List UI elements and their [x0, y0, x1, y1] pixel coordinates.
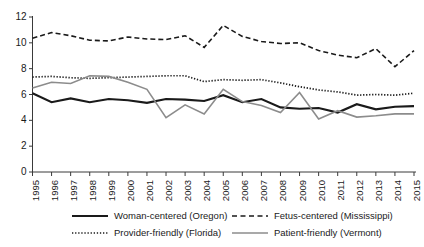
chart-canvas: 024681012 199519961997199819992000200120…	[0, 0, 424, 247]
x-tick-label: 1999	[106, 180, 117, 201]
y-tick-label: 6	[21, 89, 27, 100]
legend-label: Patient-friendly (Vermont)	[274, 227, 382, 238]
series-line	[33, 93, 415, 112]
series-line	[33, 76, 415, 119]
x-tick-label: 2004	[201, 180, 212, 201]
x-tick-label: 1995	[30, 180, 41, 201]
x-tick-label: 2007	[258, 180, 269, 201]
y-tick-label: 2	[21, 140, 27, 151]
y-tick-label: 4	[21, 114, 27, 125]
series-lines	[33, 25, 415, 119]
x-tick-label: 2013	[373, 180, 384, 201]
legend-label: Woman-centered (Oregon)	[114, 210, 227, 221]
x-tick-label: 1997	[68, 180, 79, 201]
x-tick-label: 2000	[125, 180, 136, 201]
x-tick-label: 2002	[163, 180, 174, 201]
x-tick-label: 2006	[239, 180, 250, 201]
line-chart-figure: 024681012 199519961997199819992000200120…	[0, 0, 424, 247]
series-line	[33, 25, 415, 66]
series-line	[33, 76, 415, 95]
x-tick-label: 1996	[49, 180, 60, 201]
x-tick-label: 2009	[297, 180, 308, 201]
y-tick-label: 8	[21, 63, 27, 74]
x-tick-label: 2014	[392, 180, 403, 201]
x-tick-label: 2008	[277, 180, 288, 201]
x-tick-label: 2003	[182, 180, 193, 201]
x-axis: 1995199619971998199920002001200220032004…	[30, 172, 423, 201]
y-tick-label: 12	[15, 11, 27, 22]
x-tick-label: 2012	[354, 180, 365, 201]
y-tick-label: 10	[15, 37, 27, 48]
legend-label: Fetus-centered (Mississippi)	[274, 210, 393, 221]
y-tick-label: 0	[21, 166, 27, 177]
x-tick-label: 2010	[316, 180, 327, 201]
x-tick-label: 2011	[335, 180, 346, 200]
x-tick-label: 2015	[411, 180, 422, 201]
chart-legend: Woman-centered (Oregon)Fetus-centered (M…	[72, 210, 393, 238]
y-axis: 024681012	[15, 11, 32, 177]
x-tick-label: 2005	[220, 180, 231, 201]
x-tick-label: 1998	[87, 180, 98, 201]
legend-label: Provider-friendly (Florida)	[114, 227, 221, 238]
x-tick-label: 2001	[144, 180, 155, 201]
